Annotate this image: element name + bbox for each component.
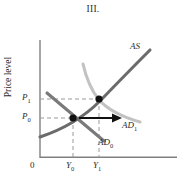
tick-label-y0: Y0 — [66, 160, 74, 172]
figure-title: III. — [0, 4, 186, 14]
origin-label: 0 — [30, 160, 35, 170]
ad1-curve-label: AD1 — [122, 120, 137, 132]
tick-label-y1: Y1 — [93, 160, 101, 172]
as-ad-diagram: III. Price level P1 P0 Y0 Y1 0 AS AD1 AD… — [0, 0, 186, 186]
ad0-curve-label: AD0 — [98, 137, 113, 149]
equilibrium-point-new — [95, 95, 102, 102]
tick-label-p1: P1 — [22, 92, 31, 104]
equilibrium-point-initial — [69, 114, 76, 121]
tick-label-p0: P0 — [22, 111, 31, 123]
as-curve-label: AS — [130, 41, 140, 51]
ad1-curve — [83, 64, 140, 122]
y-axis-label: Price level — [3, 39, 13, 115]
